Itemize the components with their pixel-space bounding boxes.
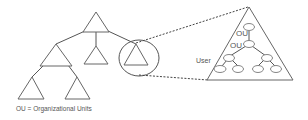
zoom-line-bottom xyxy=(139,75,208,80)
label-ou-upper: OU xyxy=(236,29,248,38)
ou-node-mid xyxy=(244,41,255,48)
user-node-1 xyxy=(214,66,226,73)
child-triangle-left xyxy=(40,44,72,66)
user-node-3 xyxy=(253,66,264,73)
grandchild-triangle-right xyxy=(65,77,90,99)
root-triangle xyxy=(83,12,109,32)
label-ou-lower: OU xyxy=(230,41,242,50)
grandchild-triangle-left xyxy=(18,77,44,99)
child-triangle-right xyxy=(124,44,148,65)
ou-node-left xyxy=(224,55,235,62)
ou-node-right xyxy=(262,55,273,62)
user-node-4 xyxy=(271,66,282,73)
legend-text: OU = Organizational Units xyxy=(16,105,92,113)
child-triangle-center xyxy=(84,46,108,64)
ou-hierarchy-diagram: OU OU User OU = Organizational Units xyxy=(0,0,308,120)
label-user: User xyxy=(196,57,211,64)
tree-connectors xyxy=(32,31,136,77)
user-node-2 xyxy=(233,66,244,73)
